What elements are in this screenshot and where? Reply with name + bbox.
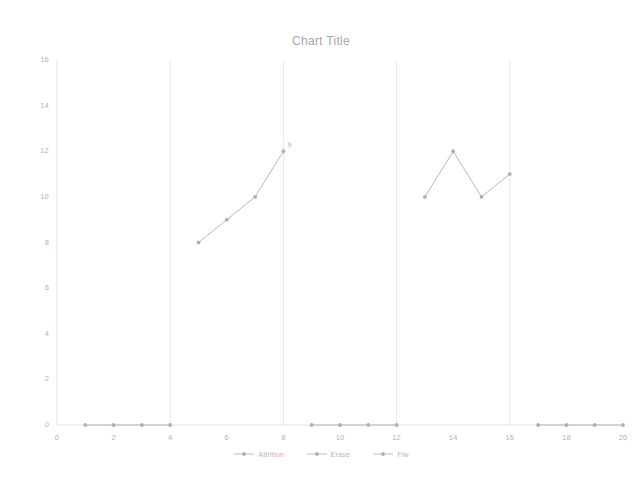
series-marker — [621, 423, 625, 427]
legend-label: Erase — [331, 451, 350, 458]
gridlines-group — [170, 60, 510, 425]
series-marker — [395, 423, 399, 427]
x-tick-label: 12 — [386, 433, 408, 442]
y-tick-label: 16 — [27, 55, 49, 64]
y-tick-label: 4 — [27, 329, 49, 338]
y-tick-label: 14 — [27, 101, 49, 110]
series-marker — [480, 195, 484, 199]
x-tick-label: 18 — [555, 433, 577, 442]
x-tick-label: 4 — [159, 433, 181, 442]
series-marker — [225, 218, 229, 222]
x-tick-label: 2 — [103, 433, 125, 442]
series-marker — [112, 423, 116, 427]
series-marker — [168, 423, 172, 427]
legend-marker-icon — [372, 450, 394, 458]
y-tick-label: 8 — [27, 238, 49, 247]
series-line — [425, 151, 510, 197]
legend-item[interactable]: Erase — [306, 450, 350, 458]
y-tick-label: 6 — [27, 283, 49, 292]
series-marker — [310, 423, 314, 427]
series-marker — [140, 423, 144, 427]
legend-label: Flw — [397, 451, 409, 458]
data-series-group — [83, 149, 624, 427]
series-marker — [565, 423, 569, 427]
series-marker — [593, 423, 597, 427]
x-tick-label: 6 — [216, 433, 238, 442]
series-marker — [423, 195, 427, 199]
series-marker — [451, 149, 455, 153]
chart-legend: AttritionEraseFlw — [0, 450, 642, 458]
x-tick-label: 14 — [442, 433, 464, 442]
legend-item[interactable]: Flw — [372, 450, 409, 458]
x-tick-label: 8 — [272, 433, 294, 442]
series-marker — [83, 423, 87, 427]
x-tick-label: 16 — [499, 433, 521, 442]
series-marker — [338, 423, 342, 427]
axis-lines-group — [57, 60, 623, 425]
legend-item[interactable]: Attrition — [233, 450, 284, 458]
legend-marker-icon — [233, 450, 255, 458]
y-tick-label: 2 — [27, 374, 49, 383]
x-tick-label: 10 — [329, 433, 351, 442]
data-point-label: 9 — [287, 141, 291, 148]
series-marker — [253, 195, 257, 199]
plot-area — [0, 0, 642, 480]
chart-container: Chart Title 0246810121416 02468101214161… — [0, 0, 642, 480]
series-marker — [508, 172, 512, 176]
series-marker — [366, 423, 370, 427]
x-tick-label: 0 — [46, 433, 68, 442]
legend-label: Attrition — [258, 451, 284, 458]
x-tick-label: 20 — [612, 433, 634, 442]
series-marker — [282, 149, 286, 153]
series-marker — [536, 423, 540, 427]
series-line — [199, 151, 284, 242]
legend-marker-icon — [306, 450, 328, 458]
y-tick-label: 12 — [27, 146, 49, 155]
y-tick-label: 10 — [27, 192, 49, 201]
y-tick-label: 0 — [27, 420, 49, 429]
series-marker — [197, 241, 201, 245]
